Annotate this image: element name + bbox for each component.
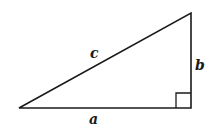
right-triangle-diagram: c b a (0, 0, 210, 132)
triangle-outline (19, 13, 191, 108)
horizontal-leg-label: a (89, 111, 98, 127)
right-angle-marker (176, 93, 191, 108)
vertical-leg-label: b (195, 57, 205, 73)
hypotenuse-label: c (90, 45, 99, 61)
